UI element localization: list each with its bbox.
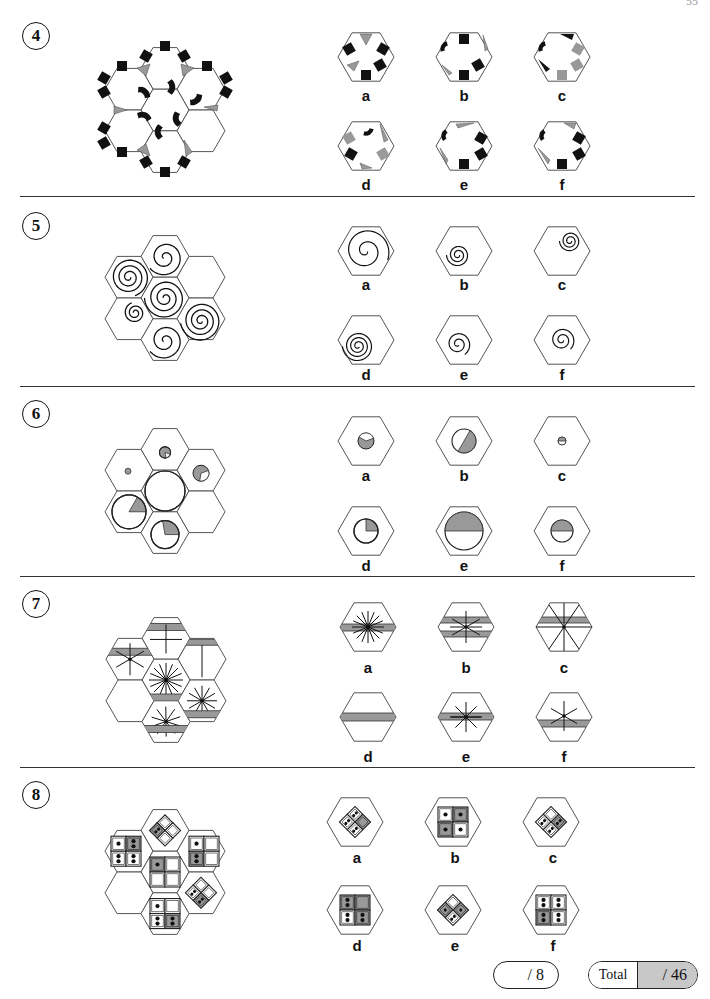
option-e[interactable]: e <box>449 366 479 383</box>
section-divider <box>20 386 695 387</box>
question-7-grid <box>106 618 226 743</box>
option-c[interactable]: c <box>549 659 579 676</box>
option-figure-d[interactable] <box>338 507 394 555</box>
question-6-grid <box>105 429 225 554</box>
option-figure-e[interactable] <box>438 693 494 741</box>
total-score-box[interactable]: Total / 46 <box>588 961 698 989</box>
section-score-box[interactable]: / 8 <box>493 961 559 989</box>
option-figure-c[interactable] <box>534 417 590 465</box>
option-c[interactable]: c <box>547 467 577 484</box>
option-figure-e[interactable] <box>436 316 492 364</box>
option-figure-d[interactable] <box>340 693 396 741</box>
option-e[interactable]: e <box>449 176 479 193</box>
section-score: / 8 <box>528 966 544 984</box>
option-a[interactable]: a <box>353 659 383 676</box>
option-d[interactable]: d <box>353 748 383 765</box>
option-e[interactable]: e <box>440 937 470 954</box>
option-figure-d[interactable] <box>338 316 394 364</box>
option-figure-c[interactable] <box>534 33 590 81</box>
section-divider <box>20 767 695 768</box>
option-b[interactable]: b <box>449 467 479 484</box>
question-5-grid <box>105 236 225 361</box>
option-d[interactable]: d <box>351 557 381 574</box>
option-a[interactable]: a <box>351 87 381 104</box>
option-b[interactable]: b <box>449 87 479 104</box>
option-figure-b[interactable] <box>425 798 481 846</box>
option-e[interactable]: e <box>449 557 479 574</box>
total-score: / 46 <box>663 966 687 984</box>
question-8-grid <box>105 810 225 935</box>
question-number: 5 <box>22 212 50 240</box>
option-c[interactable]: c <box>547 87 577 104</box>
option-figure-e[interactable] <box>436 507 492 555</box>
option-figure-a[interactable] <box>338 417 394 465</box>
option-figure-a[interactable] <box>327 798 383 846</box>
option-d[interactable]: d <box>351 176 381 193</box>
question-number: 7 <box>22 590 50 618</box>
option-figure-d[interactable] <box>327 886 383 934</box>
option-figure-a[interactable] <box>340 603 396 651</box>
option-a[interactable]: a <box>351 467 381 484</box>
section-divider <box>20 576 695 577</box>
option-figure-a[interactable] <box>338 33 394 81</box>
question-number: 8 <box>22 781 50 809</box>
option-figure-c[interactable] <box>523 798 579 846</box>
option-figure-b[interactable] <box>436 33 492 81</box>
option-d[interactable]: d <box>351 366 381 383</box>
option-b[interactable]: b <box>440 849 470 866</box>
option-f[interactable]: f <box>547 557 577 574</box>
option-figure-b[interactable] <box>436 227 492 275</box>
question-4-grid <box>97 41 233 177</box>
option-figure-c[interactable] <box>534 227 590 275</box>
option-figure-d[interactable] <box>338 122 394 170</box>
option-c[interactable]: c <box>547 276 577 293</box>
option-figure-f[interactable] <box>523 886 579 934</box>
option-figure-a[interactable] <box>338 227 394 275</box>
question-number: 6 <box>22 400 50 428</box>
option-figure-f[interactable] <box>534 122 590 170</box>
option-f[interactable]: f <box>549 748 579 765</box>
option-e[interactable]: e <box>451 748 481 765</box>
section-divider <box>20 196 695 197</box>
option-figure-f[interactable] <box>536 693 592 741</box>
option-d[interactable]: d <box>342 937 372 954</box>
option-figure-f[interactable] <box>534 316 590 364</box>
option-figure-e[interactable] <box>425 886 481 934</box>
option-b[interactable]: b <box>449 276 479 293</box>
option-figure-f[interactable] <box>534 507 590 555</box>
option-figure-e[interactable] <box>436 122 492 170</box>
option-a[interactable]: a <box>342 849 372 866</box>
total-label: Total <box>599 967 628 983</box>
option-f[interactable]: f <box>547 176 577 193</box>
option-figure-b[interactable] <box>438 603 494 651</box>
option-figure-c[interactable] <box>536 603 592 651</box>
option-a[interactable]: a <box>351 276 381 293</box>
option-figure-b[interactable] <box>436 417 492 465</box>
option-c[interactable]: c <box>538 849 568 866</box>
option-b[interactable]: b <box>451 659 481 676</box>
option-f[interactable]: f <box>538 937 568 954</box>
option-f[interactable]: f <box>547 366 577 383</box>
